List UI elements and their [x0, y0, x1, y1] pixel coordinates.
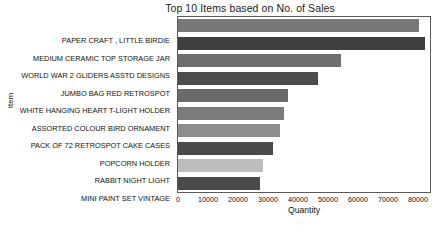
bar — [178, 19, 419, 32]
y-axis-tick-labels: PAPER CRAFT , LITTLE BIRDIEMEDIUM CERAMI… — [0, 16, 174, 193]
plot-area — [177, 16, 431, 193]
bar-row — [178, 124, 430, 137]
y-axis-tick-label: JUMBO BAG RED RETROSPOT — [61, 89, 170, 98]
x-axis-tick-label: 10000 — [198, 195, 218, 204]
bar — [178, 177, 260, 190]
bar-row — [178, 19, 430, 32]
x-axis-tick-label: 60000 — [348, 195, 368, 204]
x-axis-tick-label: 70000 — [378, 195, 398, 204]
x-axis-tick-label: 80000 — [408, 195, 428, 204]
x-axis-tick-label: 20000 — [228, 195, 248, 204]
bar — [178, 54, 341, 67]
bar — [178, 72, 318, 85]
bar-row — [178, 159, 430, 172]
bar-row — [178, 107, 430, 120]
x-axis-tick-label: 50000 — [318, 195, 338, 204]
bar — [178, 107, 284, 120]
bars-container — [178, 17, 430, 192]
bar-chart: Top 10 Items based on No. of Sales Item … — [0, 0, 448, 232]
y-axis-tick-label: PAPER CRAFT , LITTLE BIRDIE — [62, 36, 170, 45]
bar-row — [178, 72, 430, 85]
y-axis-tick-label: WORLD WAR 2 GLIDERS ASSTD DESIGNS — [21, 71, 170, 80]
bar — [178, 37, 425, 50]
bar-row — [178, 54, 430, 67]
bar-row — [178, 177, 430, 190]
chart-title: Top 10 Items based on No. of Sales — [0, 2, 448, 14]
x-axis-tick-label: 0 — [176, 195, 180, 204]
x-axis-tick-label: 30000 — [258, 195, 278, 204]
x-axis-title: Quantity — [177, 205, 431, 215]
y-axis-tick-label: WHITE HANGING HEART T-LIGHT HOLDER — [20, 106, 170, 115]
bar-row — [178, 142, 430, 155]
bar — [178, 124, 280, 137]
bar — [178, 142, 273, 155]
y-axis-tick-label: POPCORN HOLDER — [100, 159, 170, 168]
y-axis-tick-label: MEDIUM CERAMIC TOP STORAGE JAR — [33, 54, 170, 63]
x-axis-tick-label: 40000 — [288, 195, 308, 204]
bar — [178, 159, 263, 172]
y-axis-tick-label: PACK OF 72 RETROSPOT CAKE CASES — [31, 141, 170, 150]
y-axis-tick-label: RABBIT NIGHT LIGHT — [95, 176, 170, 185]
bar-row — [178, 89, 430, 102]
bar — [178, 89, 288, 102]
bar-row — [178, 37, 430, 50]
y-axis-tick-label: ASSORTED COLOUR BIRD ORNAMENT — [32, 124, 170, 133]
